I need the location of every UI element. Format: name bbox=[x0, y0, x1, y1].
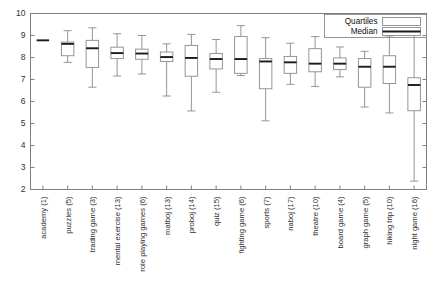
y-tick-label: 8 bbox=[21, 52, 26, 62]
quartile-box bbox=[284, 56, 297, 73]
box-plot-item[interactable] bbox=[309, 37, 322, 87]
legend-swatch-quartiles bbox=[383, 18, 421, 26]
quartile-box bbox=[408, 78, 421, 111]
quartile-box bbox=[210, 54, 223, 69]
chart-canvas: 2345678910academy (1)puzzles (5)trading … bbox=[0, 0, 443, 307]
quartile-box bbox=[383, 56, 396, 84]
x-tick-label: night game (16) bbox=[410, 196, 419, 250]
box-plot-item[interactable] bbox=[185, 34, 198, 111]
x-tick-label: quiz (15) bbox=[212, 196, 221, 226]
x-tick-label: theatre (10) bbox=[311, 196, 320, 236]
box-plot-item[interactable] bbox=[235, 26, 248, 76]
y-tick-label: 10 bbox=[16, 8, 26, 18]
legend: QuartilesMedian bbox=[325, 15, 427, 38]
box-plot-item[interactable] bbox=[111, 34, 124, 76]
y-tick-label: 6 bbox=[21, 96, 26, 106]
quartile-box bbox=[86, 40, 99, 67]
x-tick-label: naboj (17) bbox=[286, 196, 295, 231]
box-plot-item[interactable] bbox=[334, 47, 347, 77]
y-tick-label: 3 bbox=[21, 162, 26, 172]
box-plot-item[interactable] bbox=[160, 44, 173, 96]
quartile-box bbox=[235, 37, 248, 74]
box-plot-item[interactable] bbox=[383, 36, 396, 113]
y-tick-label: 9 bbox=[21, 30, 26, 40]
box-series bbox=[37, 26, 421, 182]
x-tick-label: proboj (14) bbox=[187, 196, 196, 233]
x-tick-label: fighting game (6) bbox=[237, 196, 246, 253]
quartile-box bbox=[309, 49, 322, 72]
y-tick-label: 5 bbox=[21, 118, 26, 128]
y-tick-label: 4 bbox=[21, 140, 26, 150]
y-tick-label: 2 bbox=[21, 184, 26, 194]
x-tick-label: trading game (3) bbox=[88, 196, 97, 252]
box-plot-item[interactable] bbox=[358, 51, 371, 107]
x-tick-label: matboj (13) bbox=[163, 196, 172, 235]
box-plot-item[interactable] bbox=[259, 38, 272, 121]
x-tick-label: board game (4) bbox=[336, 196, 345, 248]
quartile-box bbox=[358, 59, 371, 88]
box-plot-chart: 2345678910academy (1)puzzles (5)trading … bbox=[0, 0, 443, 307]
box-plot-item[interactable] bbox=[284, 43, 297, 84]
x-tick-label: role playing games (6) bbox=[138, 196, 147, 272]
box-plot-item[interactable] bbox=[61, 31, 74, 63]
quartile-box bbox=[259, 59, 272, 89]
x-tick-label: mental exercise (13) bbox=[113, 196, 122, 265]
x-tick-label: sports (7) bbox=[262, 196, 271, 229]
quartile-box bbox=[185, 45, 198, 76]
x-tick-label: graph game (5) bbox=[361, 196, 370, 248]
box-plot-item[interactable] bbox=[210, 39, 223, 92]
box-plot-item[interactable] bbox=[408, 31, 421, 181]
x-tick-label: academy (1) bbox=[39, 196, 48, 239]
legend-label-median: Median bbox=[351, 27, 378, 36]
x-tick-label: hiking trip (10) bbox=[385, 196, 394, 245]
x-tick-label: puzzles (5) bbox=[64, 196, 73, 234]
y-tick-label: 7 bbox=[21, 74, 26, 84]
legend-label-quartiles: Quartiles bbox=[345, 17, 378, 26]
box-plot-item[interactable] bbox=[86, 28, 99, 87]
x-axis: academy (1)puzzles (5)trading game (3)me… bbox=[39, 186, 419, 272]
box-plot-item[interactable] bbox=[136, 36, 149, 75]
